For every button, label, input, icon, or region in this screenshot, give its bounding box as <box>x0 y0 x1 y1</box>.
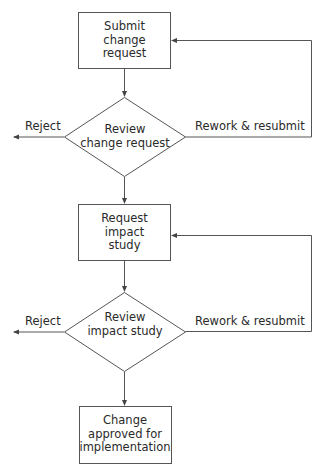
text-line: Review <box>60 311 190 325</box>
text-line: Request <box>78 212 171 226</box>
rework-resubmit-label-2: Rework & resubmit <box>195 314 305 328</box>
text-line: study <box>78 239 171 253</box>
request-impact-study-text: Request impact study <box>78 212 171 253</box>
change-approved-text: Change approved for implementation <box>76 414 174 455</box>
text-line: approved for <box>76 428 174 442</box>
text-line: impact <box>78 226 171 240</box>
review-impact-study-text: Review impact study <box>60 311 190 338</box>
reject-label-1: Reject <box>25 119 61 133</box>
text-line: change <box>78 34 171 48</box>
text-line: impact study <box>60 325 190 339</box>
text-line: request <box>78 47 171 61</box>
text-line: Submit <box>78 20 171 34</box>
text-line: Change <box>76 414 174 428</box>
reject-label-2: Reject <box>25 314 61 328</box>
submit-change-request-text: Submit change request <box>78 20 171 61</box>
text-line: change request <box>60 137 190 151</box>
review-change-request-text: Review change request <box>60 123 190 150</box>
text-line: Review <box>60 123 190 137</box>
rework-resubmit-label-1: Rework & resubmit <box>195 119 305 133</box>
text-line: implementation <box>76 441 174 455</box>
